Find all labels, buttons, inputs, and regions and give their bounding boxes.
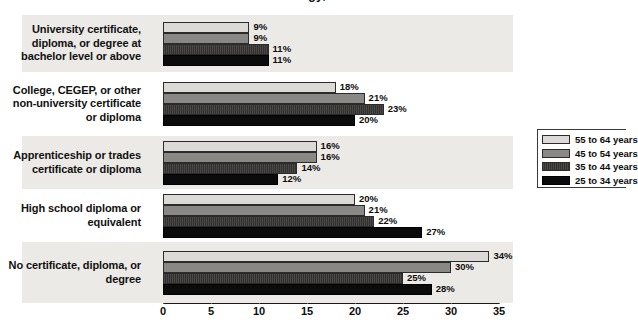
bar-value-label: 28% [436, 282, 455, 295]
category-label-line: College, CEGEP, or other [0, 84, 141, 98]
bar-2[interactable] [163, 33, 249, 44]
swatch-black-icon [542, 176, 570, 185]
bar-value-label: 21% [369, 91, 388, 104]
chart-legend: 55 to 64 years45 to 54 years35 to 44 yea… [537, 129, 626, 188]
bar-4[interactable] [163, 55, 269, 66]
bar-1[interactable] [163, 82, 336, 93]
category-axis-label: College, CEGEP, or othernon-university c… [0, 84, 141, 125]
bar-3[interactable] [163, 44, 269, 55]
category-axis-label: High school diploma orequivalent [0, 202, 141, 229]
bar-value-label: 16% [321, 150, 340, 163]
chart-title-text: ...logy, ... [0, 0, 626, 2]
bar-value-label: 20% [359, 113, 378, 126]
x-axis-tick-label: 20 [340, 305, 370, 317]
category-label-line: High school diploma or [0, 202, 141, 216]
plot-area: 05101520253035 University certificate,di… [0, 13, 513, 301]
bar-3[interactable] [163, 163, 297, 174]
bar-value-label: 25% [407, 271, 426, 284]
x-axis-tick-label: 35 [484, 305, 514, 317]
legend-item[interactable]: 35 to 44 years [542, 160, 626, 173]
x-axis-line [163, 303, 499, 304]
bar-4[interactable] [163, 227, 422, 238]
category-label-line: diploma, or degree at [0, 37, 141, 51]
bar-2[interactable] [163, 205, 365, 216]
bar-value-label: 22% [378, 214, 397, 227]
bar-value-label: 14% [301, 161, 320, 174]
category-label-line: certificate or diploma [0, 163, 141, 177]
bar-2[interactable] [163, 93, 365, 104]
category-label-line: or diploma [0, 111, 141, 125]
bar-1[interactable] [163, 141, 317, 152]
x-axis-tick-label: 10 [244, 305, 274, 317]
category-label-line: equivalent [0, 216, 141, 230]
bar-value-label: 34% [493, 249, 512, 262]
bar-3[interactable] [163, 273, 403, 284]
bar-value-label: 9% [253, 31, 267, 44]
x-axis-tick-label: 5 [196, 305, 226, 317]
bar-2[interactable] [163, 152, 317, 163]
bar-value-label: 27% [426, 225, 445, 238]
x-axis-tick-label: 30 [436, 305, 466, 317]
category-label-line: non-university certificate [0, 97, 141, 111]
category-label-line: bachelor level or above [0, 50, 141, 64]
swatch-medium-gray-icon [542, 149, 570, 158]
bar-3[interactable] [163, 104, 384, 115]
bar-4[interactable] [163, 284, 432, 295]
category-label-line: University certificate, [0, 23, 141, 37]
category-axis-label: Apprenticeship or tradescertificate or d… [0, 149, 141, 176]
legend-item-label: 25 to 34 years [575, 175, 638, 186]
x-axis-tick-label: 0 [148, 305, 178, 317]
legend-item[interactable]: 45 to 54 years [542, 147, 626, 160]
x-axis-tick-label: 15 [292, 305, 322, 317]
bar-1[interactable] [163, 194, 355, 205]
grouped-bar-chart: 05101520253035 University certificate,di… [0, 11, 626, 329]
category-axis-label: University certificate,diploma, or degre… [0, 23, 141, 64]
legend-item-label: 55 to 64 years [575, 134, 638, 145]
bar-1[interactable] [163, 22, 249, 33]
category-axis-label: No certificate, diploma, ordegree [0, 259, 141, 286]
bar-value-label: 30% [455, 260, 474, 273]
bar-value-label: 23% [388, 102, 407, 115]
bar-value-label: 18% [340, 80, 359, 93]
chart-title-cropped: ...logy, ... [0, 0, 626, 11]
category-label-line: Apprenticeship or trades [0, 149, 141, 163]
legend-item[interactable]: 55 to 64 years [542, 133, 626, 146]
swatch-light-gray-icon [542, 135, 570, 144]
legend-item[interactable]: 25 to 34 years [542, 174, 626, 187]
swatch-dark-gray-icon [542, 162, 570, 171]
category-label-line: No certificate, diploma, or [0, 259, 141, 273]
bar-value-label: 11% [273, 53, 292, 66]
x-axis-tick-label: 25 [388, 305, 418, 317]
bar-3[interactable] [163, 216, 374, 227]
bar-1[interactable] [163, 251, 489, 262]
bar-value-label: 12% [282, 172, 301, 185]
legend-item-label: 35 to 44 years [575, 161, 638, 172]
legend-item-label: 45 to 54 years [575, 148, 638, 159]
category-label-line: degree [0, 273, 141, 287]
bar-4[interactable] [163, 174, 278, 185]
bar-4[interactable] [163, 115, 355, 126]
